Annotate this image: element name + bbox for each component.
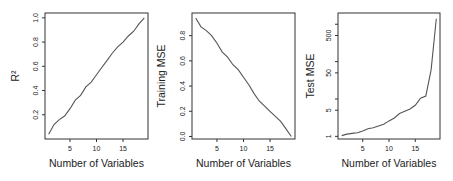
x-axis-label: Number of Variables <box>342 157 437 169</box>
y-tick-label: 0.4 <box>179 81 186 91</box>
plot-frame <box>338 13 440 139</box>
y-tick-label: 1.0 <box>32 13 39 23</box>
x-tick-label: 10 <box>385 145 393 152</box>
y-tick-label: 50 <box>325 69 332 77</box>
training-mse-panel: 510150.00.20.40.60.8Number of VariablesT… <box>155 13 295 169</box>
x-tick-label: 5 <box>68 145 72 152</box>
y-tick-label: 0.8 <box>179 31 186 41</box>
x-tick-label: 15 <box>266 145 274 152</box>
r-squared-panel: 510150.20.40.60.81.0Number of VariablesR… <box>9 13 148 169</box>
y-tick-label: 0.2 <box>179 106 186 116</box>
data-line <box>49 18 145 134</box>
x-axis-label: Number of Variables <box>49 157 144 169</box>
y-axis-label: R² <box>9 70 21 82</box>
y-tick-label: 500 <box>325 30 332 42</box>
x-tick-label: 10 <box>240 145 248 152</box>
y-tick-label: 5 <box>325 108 332 112</box>
y-tick-label: 0.0 <box>179 132 186 142</box>
y-tick-label: 0.6 <box>179 56 186 66</box>
y-tick-label: 1 <box>325 134 332 138</box>
data-line <box>342 19 437 136</box>
y-axis-label: Training MSE <box>155 44 167 107</box>
test-mse-panel: 510151550500Number of VariablesTest MSE <box>304 13 440 169</box>
y-tick-label: 0.2 <box>32 110 39 120</box>
x-tick-label: 5 <box>361 145 365 152</box>
x-tick-label: 15 <box>411 145 419 152</box>
x-tick-label: 10 <box>93 145 101 152</box>
y-tick-label: 0.4 <box>32 86 39 96</box>
x-tick-label: 15 <box>119 145 127 152</box>
x-tick-label: 5 <box>215 145 219 152</box>
figure: 510150.20.40.60.81.0Number of VariablesR… <box>0 0 453 181</box>
data-line <box>196 18 292 137</box>
y-axis-label: Test MSE <box>304 54 316 99</box>
y-tick-label: 0.8 <box>32 37 39 47</box>
x-axis-label: Number of Variables <box>196 157 291 169</box>
y-tick-label: 0.6 <box>32 61 39 71</box>
